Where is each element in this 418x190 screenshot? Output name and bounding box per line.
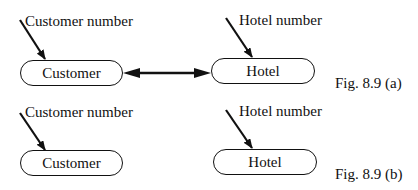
customer-number-label-a: Customer number	[25, 13, 133, 29]
figure-caption-b: Fig. 8.9 (b)	[335, 166, 403, 183]
figure-caption-a: Fig. 8.9 (a)	[335, 75, 402, 92]
hotel-number-label-b: Hotel number	[239, 103, 322, 119]
customer-entity-a: Customer	[20, 60, 123, 86]
hotel-number-label-a: Hotel number	[239, 12, 322, 28]
customer-number-label-b: Customer number	[25, 104, 133, 120]
relationship-arrowhead-left	[123, 68, 140, 78]
hotel-entity-b: Hotel	[213, 149, 317, 175]
relationship-arrowhead-right	[194, 68, 211, 78]
customer-entity-b: Customer	[20, 150, 123, 176]
hotel-entity-a: Hotel	[211, 58, 315, 84]
